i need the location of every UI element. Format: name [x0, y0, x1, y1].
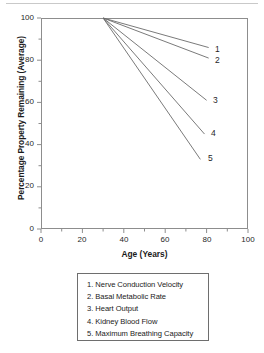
- legend-item: 2. Basal Metabolic Rate: [87, 291, 208, 303]
- x-axis-title: Age (Years): [41, 249, 248, 259]
- legend: 1. Nerve Conduction Velocity 2. Basal Me…: [77, 273, 209, 341]
- legend-item: 1. Nerve Conduction Velocity: [87, 279, 208, 291]
- legend-item: 5. Maximum Breathing Capacity: [87, 328, 208, 340]
- series-end-label-1: 1: [215, 45, 220, 54]
- chart-figure: Percentage Property Remaining (Average) …: [0, 0, 264, 353]
- series-line-1: [103, 18, 209, 48]
- x-tick-label: 60: [153, 236, 177, 244]
- x-tick-label: 100: [236, 236, 260, 244]
- legend-item: 4. Kidney Blood Flow: [87, 316, 208, 328]
- y-tick-label: 80: [8, 56, 34, 64]
- x-tick-label: 40: [112, 236, 136, 244]
- y-tick-label: 20: [8, 182, 34, 190]
- x-tick-label: 0: [29, 236, 53, 244]
- y-tick-label: 40: [8, 140, 34, 148]
- series-line-4: [103, 18, 204, 134]
- y-tick-label: 0: [8, 225, 34, 233]
- legend-item: 3. Heart Output: [87, 303, 208, 315]
- series-line-5: [103, 18, 200, 159]
- y-tick-label: 100: [8, 14, 34, 22]
- x-tick-label: 80: [195, 236, 219, 244]
- y-tick-label: 60: [8, 98, 34, 106]
- series-end-label-2: 2: [215, 56, 220, 65]
- series-end-label-5: 5: [208, 154, 213, 163]
- series-end-label-3: 3: [213, 96, 218, 105]
- x-tick-label: 20: [70, 236, 94, 244]
- series-line-3: [103, 18, 207, 100]
- series-end-label-4: 4: [211, 129, 216, 138]
- series-line-2: [103, 18, 209, 58]
- data-series: [103, 18, 209, 159]
